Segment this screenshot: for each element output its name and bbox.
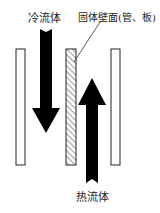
solid-wall <box>66 49 76 165</box>
hot-fluid-label: 热流体 <box>76 188 109 204</box>
left-outer-wall <box>16 49 25 165</box>
wall-leader-line <box>74 22 100 62</box>
solid-wall-label: 固体壁面(管、板) <box>78 9 156 24</box>
cold-fluid-label: 冷流体 <box>28 9 61 25</box>
cold-fluid-arrow-down <box>32 29 60 133</box>
heat-exchanger-diagram <box>0 0 160 213</box>
right-outer-wall <box>111 49 120 165</box>
hot-fluid-arrow-up <box>78 78 106 183</box>
